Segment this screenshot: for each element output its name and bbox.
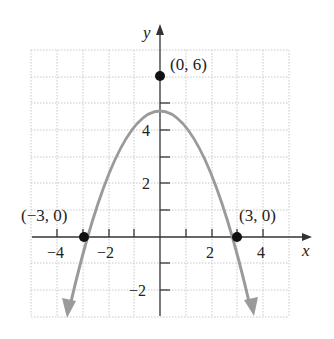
x-axis-label: x [301, 241, 310, 260]
left-intercept-label: (−3, 0) [21, 206, 67, 225]
y-axis-label: y [141, 23, 151, 42]
x-tick-label-m2: −2 [97, 244, 114, 261]
x-tick-label-2: 2 [206, 244, 214, 261]
right-intercept-label: (3, 0) [239, 206, 276, 225]
x-axis-arrow-icon [302, 233, 312, 241]
right-arrow-icon [244, 297, 258, 316]
y-tick-label-4: 4 [142, 122, 150, 139]
x-tick-label-m4: −4 [47, 244, 64, 261]
left-arrow-icon [62, 298, 76, 318]
vertex-point [155, 71, 165, 81]
left-intercept-point [79, 232, 89, 242]
y-tick-label-2: 2 [142, 175, 150, 192]
y-tick-label-m2: −2 [129, 282, 146, 299]
right-intercept-point [232, 232, 242, 242]
x-tick-label-4: 4 [257, 244, 265, 261]
parabola-chart: y x −4 −2 2 4 4 2 −2 (0, 6) (−3, 0) (3, … [0, 0, 334, 339]
y-axis-arrow-icon [156, 24, 164, 35]
vertex-label: (0, 6) [170, 55, 207, 74]
